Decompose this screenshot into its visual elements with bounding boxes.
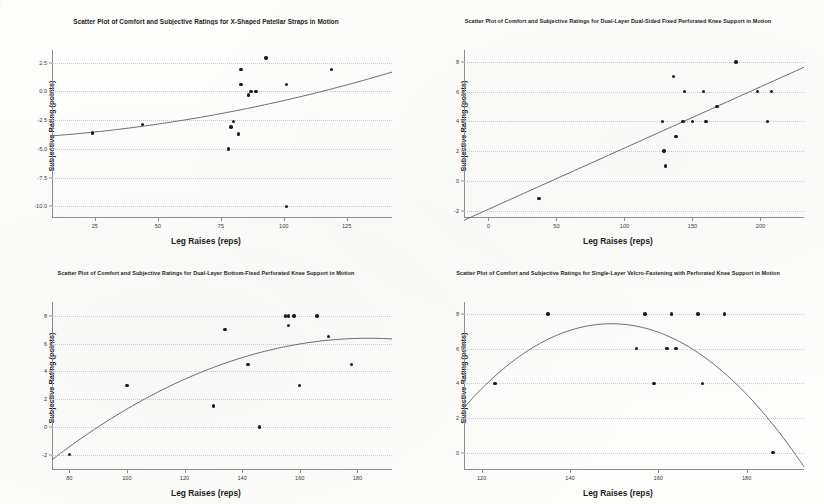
chart-panel-bottom-right: Scatter Plot of Comfort and Subjective R… bbox=[412, 252, 824, 504]
x-tick-label: 100 bbox=[122, 475, 131, 481]
y-tick-label: -2 bbox=[42, 452, 47, 458]
x-tick-label: 120 bbox=[180, 475, 189, 481]
scatter-point bbox=[232, 120, 235, 123]
x-tick-mark bbox=[127, 470, 128, 473]
y-tick-label: 8 bbox=[456, 311, 459, 317]
x-tick-mark bbox=[747, 470, 748, 473]
scatter-point bbox=[723, 312, 726, 315]
x-axis-label-bottom-right: Leg Raises (reps) bbox=[412, 488, 824, 498]
scatter-point bbox=[493, 382, 496, 385]
plot-area-top-right: 86420-2050100150200 bbox=[464, 50, 804, 218]
x-tick-mark bbox=[570, 470, 571, 473]
scatter-point bbox=[212, 404, 215, 407]
x-tick-label: 140 bbox=[237, 475, 246, 481]
x-tick-label: 75 bbox=[218, 223, 224, 229]
x-tick-label: 160 bbox=[654, 475, 663, 481]
x-tick-label: 160 bbox=[295, 475, 304, 481]
scatter-point bbox=[537, 197, 540, 200]
scatter-point bbox=[652, 382, 655, 385]
regression-fit-layer bbox=[52, 50, 392, 218]
chart-title-top-left: Scatter Plot of Comfort and Subjective R… bbox=[0, 18, 412, 25]
x-tick-mark bbox=[242, 470, 243, 473]
scatter-point bbox=[254, 90, 257, 93]
x-tick-label: 125 bbox=[342, 223, 351, 229]
x-tick-label: 50 bbox=[155, 223, 161, 229]
y-tick-label: 6 bbox=[44, 341, 47, 347]
y-tick-label: 4 bbox=[456, 380, 459, 386]
y-tick-label: 2.5 bbox=[39, 60, 47, 66]
y-tick-label: -5.0 bbox=[37, 146, 47, 152]
scatter-point bbox=[643, 312, 646, 315]
plot-area-top-left: 2.50.0-2.5-5.0-7.5-10.0255075100125 bbox=[52, 50, 392, 218]
scatter-point bbox=[704, 120, 707, 123]
scatter-point bbox=[674, 135, 677, 138]
scatter-point bbox=[239, 68, 242, 71]
x-tick-mark bbox=[357, 470, 358, 473]
scatter-point bbox=[246, 363, 249, 366]
scatter-point bbox=[285, 205, 288, 208]
chart-panel-top-right: Scatter Plot of Comfort and Subjective R… bbox=[412, 0, 824, 252]
chart-panel-bottom-left: Scatter Plot of Comfort and Subjective R… bbox=[0, 252, 412, 504]
x-tick-label: 140 bbox=[565, 475, 574, 481]
y-tick-label: 4 bbox=[44, 368, 47, 374]
y-tick-label: 2 bbox=[456, 148, 459, 154]
y-tick-label: 6 bbox=[456, 89, 459, 95]
regression-line bbox=[52, 72, 392, 136]
scatter-point bbox=[292, 314, 295, 317]
y-tick-label: 6 bbox=[456, 346, 459, 352]
scatter-point bbox=[229, 125, 232, 128]
x-tick-mark bbox=[658, 470, 659, 473]
scatter-point bbox=[249, 90, 252, 93]
x-tick-label: 150 bbox=[688, 223, 697, 229]
x-tick-mark bbox=[69, 470, 70, 473]
x-tick-mark bbox=[221, 218, 222, 221]
chart-title-top-right: Scatter Plot of Comfort and Subjective R… bbox=[412, 18, 824, 24]
x-tick-label: 200 bbox=[756, 223, 765, 229]
regression-fit-layer bbox=[464, 302, 804, 470]
scatter-point bbox=[237, 132, 240, 135]
x-tick-mark bbox=[692, 218, 693, 221]
scatter-point bbox=[91, 131, 94, 134]
regression-line bbox=[464, 324, 804, 467]
x-tick-mark bbox=[347, 218, 348, 221]
x-tick-label: 50 bbox=[553, 223, 559, 229]
scatter-point bbox=[670, 312, 673, 315]
x-tick-mark bbox=[300, 470, 301, 473]
y-tick-label: 0 bbox=[456, 178, 459, 184]
x-tick-mark bbox=[158, 218, 159, 221]
scatter-point bbox=[239, 83, 242, 86]
x-tick-label: 100 bbox=[620, 223, 629, 229]
x-tick-label: 120 bbox=[477, 475, 486, 481]
x-tick-label: 100 bbox=[279, 223, 288, 229]
x-tick-mark bbox=[185, 470, 186, 473]
scatter-point bbox=[247, 93, 250, 96]
x-tick-label: 25 bbox=[92, 223, 98, 229]
y-tick-label: 2 bbox=[44, 396, 47, 402]
regression-line bbox=[52, 338, 392, 460]
y-tick-label: 0 bbox=[44, 424, 47, 430]
scatter-point bbox=[546, 312, 549, 315]
y-tick-label: -7.5 bbox=[37, 175, 47, 181]
scatter-plot-grid: Scatter Plot of Comfort and Subjective R… bbox=[0, 0, 824, 504]
x-axis-label-top-right: Leg Raises (reps) bbox=[412, 236, 824, 246]
x-tick-mark bbox=[488, 218, 489, 221]
scatter-point bbox=[715, 105, 718, 108]
y-tick-label: -10.0 bbox=[34, 203, 47, 209]
plot-area-bottom-right: 86420120140160180 bbox=[464, 302, 804, 470]
scatter-point bbox=[664, 164, 667, 167]
x-tick-mark bbox=[760, 218, 761, 221]
x-axis-label-bottom-left: Leg Raises (reps) bbox=[0, 488, 412, 498]
scatter-point bbox=[315, 314, 318, 317]
plot-area-bottom-left: 86420-280100120140160180 bbox=[52, 302, 392, 470]
y-tick-label: 0.0 bbox=[39, 88, 47, 94]
y-tick-label: 8 bbox=[44, 313, 47, 319]
x-tick-label: 0 bbox=[487, 223, 490, 229]
x-tick-mark bbox=[624, 218, 625, 221]
y-tick-label: -2 bbox=[454, 208, 459, 214]
x-tick-mark bbox=[284, 218, 285, 221]
scatter-point bbox=[766, 120, 769, 123]
scatter-point bbox=[125, 384, 128, 387]
scatter-point bbox=[258, 425, 261, 428]
scatter-point bbox=[681, 120, 684, 123]
y-tick-label: 0 bbox=[456, 450, 459, 456]
